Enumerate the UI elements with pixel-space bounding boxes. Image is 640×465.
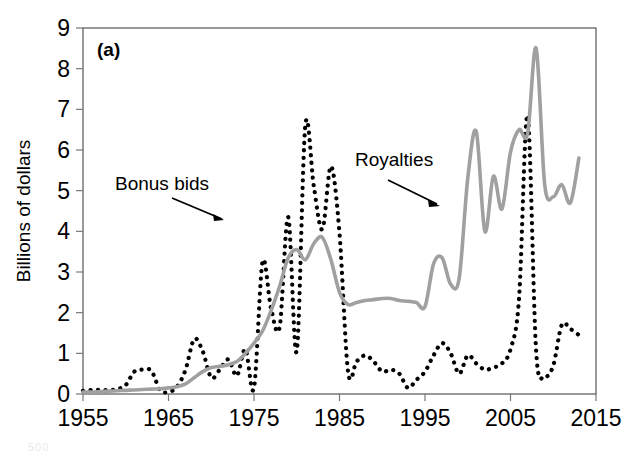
y-tick-label: 4: [57, 218, 70, 244]
x-tick-label: 2005: [485, 405, 536, 431]
x-tick-label: 1985: [314, 405, 365, 431]
y-axis-title: Billions of dollars: [13, 140, 34, 283]
x-tick-label: 1965: [143, 405, 194, 431]
y-tick-label: 8: [57, 56, 70, 82]
annotation-label-bonus-bids: Bonus bids: [115, 173, 209, 194]
figure-panel-a: 0123456789 1955196519751985199520052015 …: [0, 0, 640, 465]
x-tick-label: 1955: [57, 405, 108, 431]
y-tick-label: 9: [57, 15, 70, 41]
y-tick-label: 1: [57, 340, 70, 366]
y-tick-label: 2: [57, 300, 70, 326]
y-tick-label: 0: [57, 381, 70, 407]
y-tick-label: 3: [57, 259, 70, 285]
y-tick-label: 5: [57, 178, 70, 204]
line-chart: 0123456789 1955196519751985199520052015 …: [0, 0, 640, 465]
x-tick-label: 1995: [399, 405, 450, 431]
y-tick-label: 7: [57, 96, 70, 122]
x-axis-ticks: 1955196519751985199520052015: [57, 394, 621, 431]
annotation-label-royalties: Royalties: [355, 149, 433, 170]
plot-border: [83, 28, 596, 394]
panel-label: (a): [97, 39, 120, 60]
footer-text-fragment: 500: [28, 441, 49, 453]
plot-frame: [83, 28, 596, 394]
y-tick-label: 6: [57, 137, 70, 163]
y-axis-ticks: 0123456789: [57, 15, 83, 407]
x-tick-label: 1975: [228, 405, 279, 431]
x-tick-label: 2015: [570, 405, 621, 431]
